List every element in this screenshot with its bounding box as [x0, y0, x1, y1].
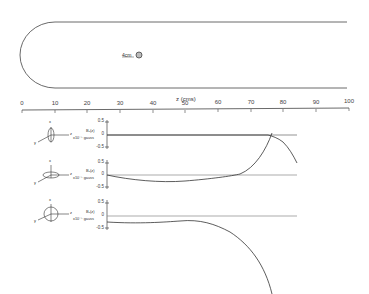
panel3-field-label: B₁(z) [86, 210, 95, 214]
tank-outline [20, 22, 347, 88]
axis-x-label-1: x [49, 120, 51, 124]
curve-panel-1 [107, 135, 297, 163]
axis-z-label-2: z [70, 172, 72, 176]
curve-panel-3 [107, 221, 272, 294]
tick-0: 0 [20, 100, 23, 106]
panel3-ytick-bottom: -0.5 [90, 226, 104, 231]
panel1-ytick-bottom: -0.5 [90, 145, 104, 150]
panel2-ytick-bottom: -0.5 [90, 185, 104, 190]
panel2-field-label: B₁(z) [86, 169, 95, 173]
tick-100: 100 [344, 98, 354, 104]
orientation-icon-1 [38, 127, 69, 142]
axis-y-label-1: y [34, 141, 36, 145]
tick-40: 40 [150, 100, 157, 106]
tick-20: 20 [84, 100, 91, 106]
tick-60: 60 [215, 99, 222, 105]
panel2-ytick-zero: 0 [96, 172, 104, 177]
axis-y-label-2: y [34, 181, 36, 185]
axis-z-label-1: z [70, 132, 72, 136]
orientation-icon-2 [38, 165, 69, 182]
axis-x-label-3: x [49, 198, 51, 202]
z-axis [22, 108, 349, 110]
tick-90: 90 [313, 99, 320, 105]
axis-y-label-3: y [34, 219, 36, 223]
tick-70: 70 [248, 99, 255, 105]
panel3-ytick-top: 0.5 [92, 200, 104, 205]
panel1-units: x10⁻⁵ gauss [73, 137, 94, 141]
panel1-ytick-top: 0.5 [92, 119, 104, 124]
tick-30: 30 [117, 100, 124, 106]
loop-marker-icon [136, 52, 142, 58]
axis-z-label-3: z [70, 211, 72, 215]
panel2-ytick-top: 0.5 [92, 160, 104, 165]
tick-10: 10 [52, 100, 59, 106]
orientation-icon-3 [38, 204, 69, 222]
tick-80: 80 [280, 99, 287, 105]
panel2-units: x10⁻⁵ gauss [73, 177, 94, 181]
panel1-field-label: B₁(z) [86, 129, 95, 133]
panel3-units: x10⁻⁵ gauss [73, 218, 94, 222]
loop-size-label: 4cm [122, 53, 131, 58]
figure-canvas [0, 0, 369, 294]
panel3-ytick-zero: 0 [96, 213, 104, 218]
tick-50: 50 [182, 100, 189, 106]
curve-panel-2 [107, 133, 272, 182]
panel1-ytick-zero: 0 [96, 132, 104, 137]
axis-x-label-2: x [49, 159, 51, 163]
